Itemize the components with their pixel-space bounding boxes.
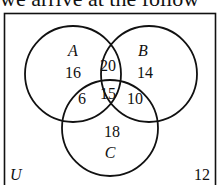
set-label-a: A <box>67 42 78 59</box>
venn-diagram: A B C 16 14 20 15 6 10 18 U 12 <box>0 0 222 185</box>
region-a-and-c: 6 <box>78 90 86 107</box>
set-label-b: B <box>138 42 148 59</box>
region-a-only: 16 <box>65 64 81 81</box>
outside-value: 12 <box>194 166 210 183</box>
set-label-c: C <box>105 144 116 161</box>
region-c-only: 18 <box>104 123 120 140</box>
region-b-and-c: 10 <box>127 90 143 107</box>
region-b-only: 14 <box>137 64 153 81</box>
region-a-b-c: 15 <box>100 85 116 102</box>
universe-label: U <box>10 166 23 183</box>
region-a-and-b: 20 <box>100 57 116 74</box>
